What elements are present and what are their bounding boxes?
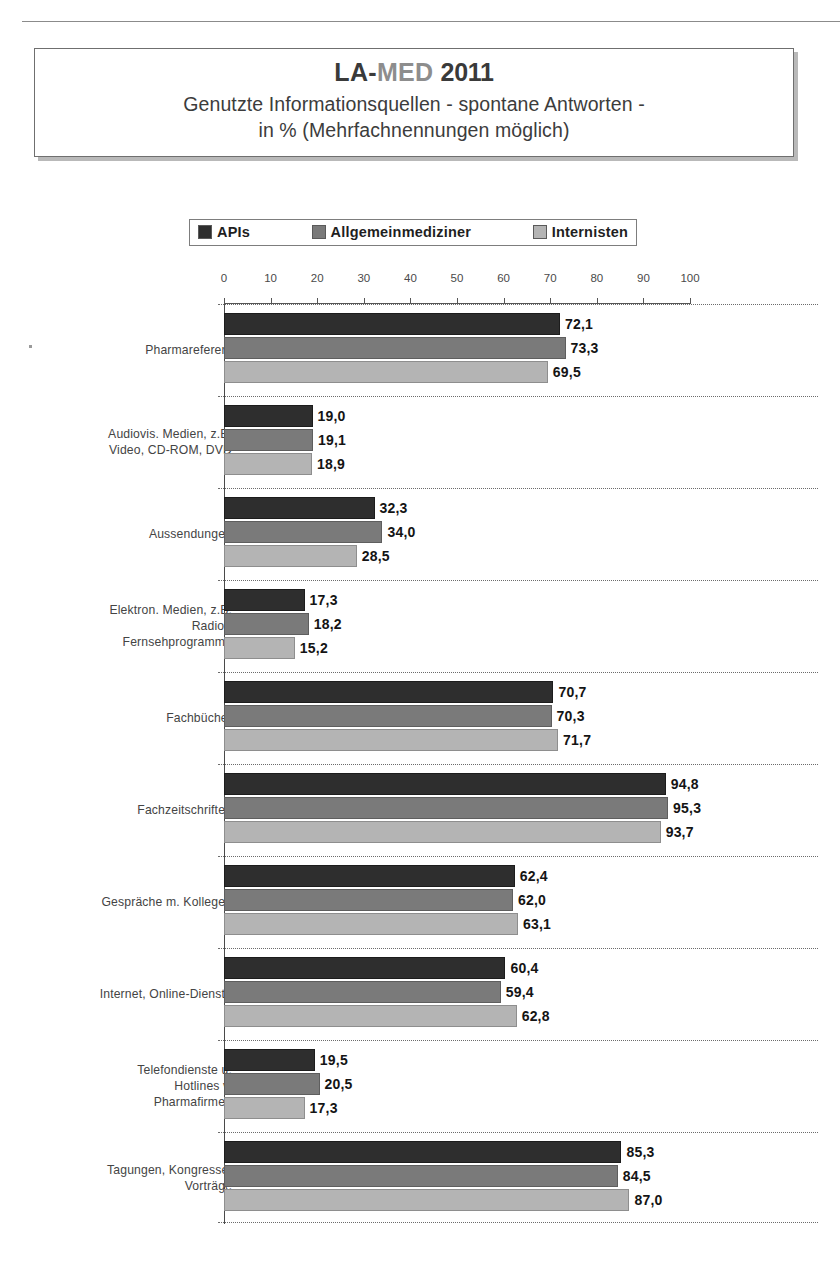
bar-internisten[interactable] xyxy=(224,1097,305,1119)
bar-apis[interactable] xyxy=(224,681,553,703)
bar-internisten[interactable] xyxy=(224,729,558,751)
bar-allgemeinmediziner[interactable] xyxy=(224,705,552,727)
group-separator xyxy=(218,856,818,857)
bar-value-label: 17,3 xyxy=(310,1100,338,1116)
bar-row: 62,8 xyxy=(224,1005,840,1027)
bar-row: 28,5 xyxy=(224,545,840,567)
legend-swatch-icon xyxy=(312,225,326,239)
bar-row: 17,3 xyxy=(224,589,840,611)
logo-la-text: LA- xyxy=(334,58,377,86)
x-tick-label-10: 10 xyxy=(264,272,277,284)
bar-group: Audiovis. Medien, z.B.Video, CD-ROM, DVD… xyxy=(0,396,840,488)
bar-value-label: 63,1 xyxy=(523,916,551,932)
bar-value-label: 93,7 xyxy=(666,824,694,840)
bar-internisten[interactable] xyxy=(224,545,357,567)
bar-group: Pharmareferent72,173,369,5 xyxy=(0,304,840,396)
bar-group: Gespräche m. Kollegen62,462,063,1 xyxy=(0,856,840,948)
bar-internisten[interactable] xyxy=(224,1189,629,1211)
logo-year-text: 2011 xyxy=(441,58,494,86)
legend-item-1[interactable]: Allgemeinmediziner xyxy=(312,224,472,240)
bar-value-label: 17,3 xyxy=(310,592,338,608)
legend-item-2[interactable]: Internisten xyxy=(533,224,628,240)
x-tick-label-0: 0 xyxy=(221,272,227,284)
bar-internisten[interactable] xyxy=(224,821,661,843)
bar-row: 17,3 xyxy=(224,1097,840,1119)
category-label: Telefondienste u.Hotlines v.Pharmafirmen xyxy=(32,1062,232,1110)
bar-value-label: 19,1 xyxy=(318,432,346,448)
category-label: Tagungen, Kongresse,Vorträge xyxy=(32,1162,232,1194)
bar-group: Fachbücher70,770,371,7 xyxy=(0,672,840,764)
chart-page: LA-MED 2011 Genutzte Informationsquellen… xyxy=(0,0,840,1267)
bar-row: 73,3 xyxy=(224,337,840,359)
bar-value-label: 62,4 xyxy=(520,868,548,884)
bar-value-label: 84,5 xyxy=(623,1168,651,1184)
bar-value-label: 62,0 xyxy=(518,892,546,908)
bar-value-label: 73,3 xyxy=(571,340,599,356)
lamed-logo: LA-MED 2011 xyxy=(45,58,783,86)
bar-allgemeinmediziner[interactable] xyxy=(224,981,501,1003)
group-separator xyxy=(218,488,818,489)
bar-allgemeinmediziner[interactable] xyxy=(224,613,309,635)
bar-apis[interactable] xyxy=(224,1049,315,1071)
x-tick-label-30: 30 xyxy=(357,272,370,284)
bar-row: 85,3 xyxy=(224,1141,840,1163)
bar-internisten[interactable] xyxy=(224,913,518,935)
legend-swatch-icon xyxy=(198,225,212,239)
bar-apis[interactable] xyxy=(224,497,375,519)
bar-value-label: 94,8 xyxy=(671,776,699,792)
x-tick-label-20: 20 xyxy=(311,272,324,284)
bar-row: 18,9 xyxy=(224,453,840,475)
legend-item-0[interactable]: APIs xyxy=(198,224,250,240)
bar-apis[interactable] xyxy=(224,865,515,887)
legend-item-label: Internisten xyxy=(552,224,628,240)
bar-internisten[interactable] xyxy=(224,361,548,383)
bar-value-label: 72,1 xyxy=(565,316,593,332)
bar-value-label: 15,2 xyxy=(300,640,328,656)
bar-internisten[interactable] xyxy=(224,637,295,659)
bar-row: 70,3 xyxy=(224,705,840,727)
category-label: Fachbücher xyxy=(32,710,232,726)
bar-allgemeinmediziner[interactable] xyxy=(224,429,313,451)
bar-allgemeinmediziner[interactable] xyxy=(224,521,382,543)
chart-legend: APIsAllgemeinmedizinerInternisten xyxy=(189,219,637,246)
bar-group: Tagungen, Kongresse,Vorträge85,384,587,0 xyxy=(0,1132,840,1224)
bar-row: 93,7 xyxy=(224,821,840,843)
title-box: LA-MED 2011 Genutzte Informationsquellen… xyxy=(34,48,794,157)
bar-apis[interactable] xyxy=(224,313,560,335)
bar-value-label: 95,3 xyxy=(673,800,701,816)
legend-item-label: Allgemeinmediziner xyxy=(331,224,472,240)
x-tick-label-40: 40 xyxy=(404,272,417,284)
chart-title-line1: Genutzte Informationsquellen - spontane … xyxy=(45,91,783,117)
bar-group: Aussendungen32,334,028,5 xyxy=(0,488,840,580)
category-label: Fachzeitschriften xyxy=(32,802,232,818)
bar-allgemeinmediziner[interactable] xyxy=(224,337,566,359)
bar-allgemeinmediziner[interactable] xyxy=(224,1165,618,1187)
category-label: Pharmareferent xyxy=(32,342,232,358)
bar-apis[interactable] xyxy=(224,773,666,795)
bar-apis[interactable] xyxy=(224,589,305,611)
category-label: Internet, Online-Dienste xyxy=(32,986,232,1002)
bar-group: Internet, Online-Dienste60,459,462,8 xyxy=(0,948,840,1040)
bar-group: Telefondienste u.Hotlines v.Pharmafirmen… xyxy=(0,1040,840,1132)
bar-value-label: 19,0 xyxy=(318,408,346,424)
bar-internisten[interactable] xyxy=(224,1005,517,1027)
bar-allgemeinmediziner[interactable] xyxy=(224,1073,320,1095)
x-axis-tick-labels: 0102030405060708090100 xyxy=(0,272,840,288)
x-tick-label-100: 100 xyxy=(680,272,699,284)
bar-value-label: 34,0 xyxy=(387,524,415,540)
bar-allgemeinmediziner[interactable] xyxy=(224,797,668,819)
bar-row: 19,5 xyxy=(224,1049,840,1071)
bar-value-label: 62,8 xyxy=(522,1008,550,1024)
bar-value-label: 70,7 xyxy=(558,684,586,700)
bar-apis[interactable] xyxy=(224,957,505,979)
bar-apis[interactable] xyxy=(224,1141,621,1163)
bar-apis[interactable] xyxy=(224,405,313,427)
group-separator xyxy=(218,1132,818,1133)
bar-value-label: 18,9 xyxy=(317,456,345,472)
bar-value-label: 69,5 xyxy=(553,364,581,380)
bar-internisten[interactable] xyxy=(224,453,312,475)
bar-value-label: 60,4 xyxy=(510,960,538,976)
bar-group: Fachzeitschriften94,895,393,7 xyxy=(0,764,840,856)
bar-allgemeinmediziner[interactable] xyxy=(224,889,513,911)
bar-value-label: 70,3 xyxy=(557,708,585,724)
